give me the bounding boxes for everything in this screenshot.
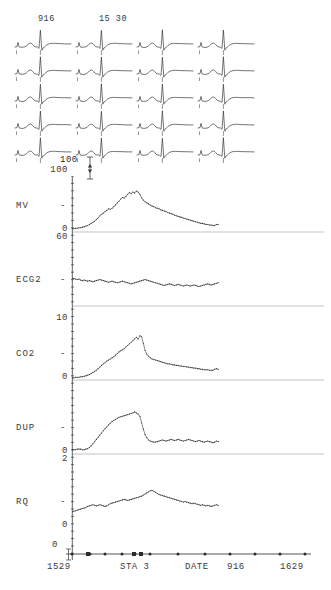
trend-baseline-label: 60 xyxy=(42,232,68,242)
trend-ytick-high: 100 xyxy=(42,165,68,175)
time-axis: 0 1529STA 3DATE9161629 xyxy=(0,548,331,590)
ecg-column-label-2: 15 30 xyxy=(99,14,127,24)
time-axis-label-0: 1529 xyxy=(47,562,71,572)
trend-row: MV-100060 xyxy=(0,170,331,244)
ecg-beat-cell xyxy=(197,136,255,164)
trend-label-dash: - xyxy=(60,423,65,433)
trend-row: DUP-02 xyxy=(0,392,331,466)
time-axis-label-3: 916 xyxy=(227,562,245,572)
ecg-beat-cell xyxy=(14,82,72,110)
ecg-beat-cell xyxy=(14,28,72,56)
trend-plot-rq xyxy=(72,466,324,540)
amplitude-scale-label: 100 xyxy=(60,155,78,165)
ecg-beat-cell xyxy=(197,109,255,137)
trend-plot-ecg2 xyxy=(72,244,324,318)
ecg-beat-cell xyxy=(14,55,72,83)
ecg-column-label-1: 916 xyxy=(38,14,55,24)
trend-channel-label-mv: MV xyxy=(16,201,29,211)
ecg-beat-cell xyxy=(75,55,133,83)
trend-ytick-high: 10 xyxy=(42,313,68,323)
trend-plot-mv xyxy=(72,170,324,244)
ecg-beat-cell xyxy=(136,109,194,137)
trend-label-dash: - xyxy=(60,349,65,359)
trend-channel-label-ecg2: ECG2 xyxy=(16,275,42,285)
ecg-beat-cell xyxy=(197,82,255,110)
time-axis-label-4: 1629 xyxy=(280,562,304,572)
ecg-beat-cell xyxy=(75,82,133,110)
trend-panel-group: MV-100060 ECG2- CO2-100 DUP-02 RQ-0 xyxy=(0,170,331,590)
trend-ytick-low: 0 xyxy=(42,520,68,530)
trend-label-dash: - xyxy=(60,497,65,507)
vertical-axis-spine xyxy=(71,176,74,560)
axis-zero-label: 0 xyxy=(52,540,57,550)
trend-row: RQ-0 xyxy=(0,466,331,540)
trend-ytick-low: 0 xyxy=(42,372,68,382)
ecg-beat-cell xyxy=(136,28,194,56)
trend-label-dash: - xyxy=(60,201,65,211)
time-axis-label-2: DATE xyxy=(185,562,209,572)
trend-baseline-label: 2 xyxy=(42,454,68,464)
ecg-beat-cell xyxy=(136,136,194,164)
trend-label-dash: - xyxy=(60,275,65,285)
trend-plot-dup xyxy=(72,392,324,466)
trend-row: ECG2- xyxy=(0,244,331,318)
trend-channel-label-co2: CO2 xyxy=(16,349,35,359)
time-axis-label-1: STA 3 xyxy=(120,562,150,572)
trend-channel-label-dup: DUP xyxy=(16,423,35,433)
ecg-beat-matrix: 916 15 30 xyxy=(14,28,254,168)
trend-row: CO2-100 xyxy=(0,318,331,392)
ecg-beat-cell xyxy=(75,109,133,137)
trend-monitor-screen: 916 15 30 xyxy=(0,0,331,590)
ecg-beat-cell xyxy=(136,82,194,110)
ecg-beat-cell xyxy=(14,109,72,137)
ecg-beat-cell xyxy=(197,55,255,83)
time-axis-line xyxy=(0,548,331,562)
ecg-beat-cell xyxy=(136,55,194,83)
ecg-beat-cell xyxy=(197,28,255,56)
trend-plot-co2 xyxy=(72,318,324,392)
ecg-beat-cell xyxy=(75,28,133,56)
trend-channel-label-rq: RQ xyxy=(16,497,29,507)
